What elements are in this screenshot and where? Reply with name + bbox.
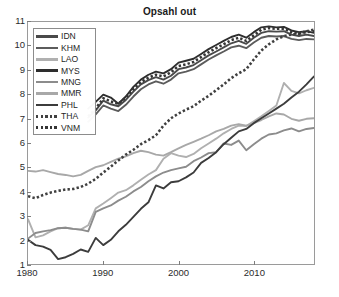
legend-swatch-mmr-icon [36,88,58,99]
legend-label: MYS [61,67,80,76]
y-tick-mark [27,265,31,266]
legend-label: PHL [61,101,78,110]
legend-swatch-mys-icon [36,65,58,76]
y-tick-mark [27,167,31,168]
y-tick-label: 7 [3,114,25,124]
line-series-khm [88,36,314,122]
x-tick-label: 1980 [7,268,47,278]
legend-swatch-khm-icon [36,43,58,54]
legend-item-phl[interactable]: PHL [36,99,92,110]
legend-swatch-mng-icon [36,77,58,88]
y-tick-label: 2 [3,236,25,246]
legend-label: MNG [61,78,81,87]
x-tick-label: 2000 [159,268,199,278]
legend-label: LAO [61,55,78,64]
legend-label: MMR [61,89,82,98]
y-tick-label: 3 [3,211,25,221]
legend-swatch-idn-icon [36,31,58,42]
y-tick-mark [27,216,31,217]
x-tick-mark [27,261,28,265]
legend-label: VNM [61,124,80,133]
y-tick-label: 9 [3,65,25,75]
y-tick-label: 10 [3,40,25,50]
legend-label: KHM [61,44,80,53]
y-tick-label: 6 [3,138,25,148]
line-series-idn [88,31,314,117]
y-axis: 1110987654321 [0,21,25,265]
legend-item-lao[interactable]: LAO [36,54,92,65]
y-tick-mark [27,45,31,46]
legend-item-vnm[interactable]: VNM [36,122,92,133]
page-title: Opsahl out [0,6,339,17]
legend-swatch-vnm-icon [36,122,58,133]
y-tick-label: 11 [3,16,25,26]
y-tick-mark [27,143,31,144]
x-tick-mark [103,261,104,265]
x-tick-label: 1990 [83,268,123,278]
x-tick-mark [179,261,180,265]
y-tick-mark [27,94,31,95]
x-tick-mark [254,261,255,265]
legend-item-mmr[interactable]: MMR [36,88,92,99]
y-tick-label: 5 [3,162,25,172]
x-axis: 1980199020002010 [0,268,339,282]
y-tick-mark [27,241,31,242]
legend-item-tha[interactable]: THA [36,111,92,122]
legend-item-khm[interactable]: KHM [36,42,92,53]
x-tick-label: 2010 [234,268,274,278]
legend-swatch-lao-icon [36,54,58,65]
legend-label: IDN [61,32,76,41]
legend: IDNKHMLAOMYSMNGMMRPHLTHAVNM [33,28,96,135]
figure-container: Opsahl out 1110987654321 198019902000201… [0,0,339,297]
legend-label: THA [61,112,78,121]
y-tick-mark [27,192,31,193]
legend-item-mng[interactable]: MNG [36,77,92,88]
y-tick-mark [27,21,31,22]
y-tick-label: 8 [3,89,25,99]
y-tick-label: 4 [3,187,25,197]
legend-item-mys[interactable]: MYS [36,65,92,76]
y-tick-mark [27,70,31,71]
legend-swatch-tha-icon [36,111,58,122]
legend-swatch-phl-icon [36,100,58,111]
legend-item-idn[interactable]: IDN [36,31,92,42]
y-tick-mark [27,119,31,120]
